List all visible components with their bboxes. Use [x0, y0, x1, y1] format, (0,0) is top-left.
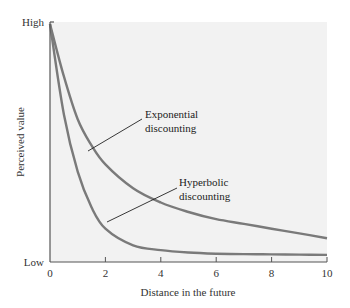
exponential-annotation-line2: discounting [145, 122, 197, 134]
plot-area [50, 22, 327, 262]
x-tick-label: 8 [269, 267, 275, 279]
y-tick-label-low: Low [24, 256, 44, 268]
x-tick-label: 10 [322, 267, 334, 279]
x-axis-label: Distance in the future [141, 286, 236, 298]
y-tick-label-high: High [22, 16, 45, 28]
discounting-chart: 0246810 High Low Distance in the future … [0, 0, 350, 308]
x-tick-label: 6 [213, 267, 219, 279]
hyperbolic-annotation-line1: Hyperbolic [179, 176, 229, 188]
exponential-annotation-line1: Exponential [145, 108, 198, 120]
hyperbolic-annotation-line2: discounting [179, 190, 231, 202]
x-tick-label: 0 [47, 267, 53, 279]
x-tick-label: 4 [158, 267, 164, 279]
y-axis-label: Perceived value [14, 107, 26, 177]
x-tick-label: 2 [103, 267, 109, 279]
